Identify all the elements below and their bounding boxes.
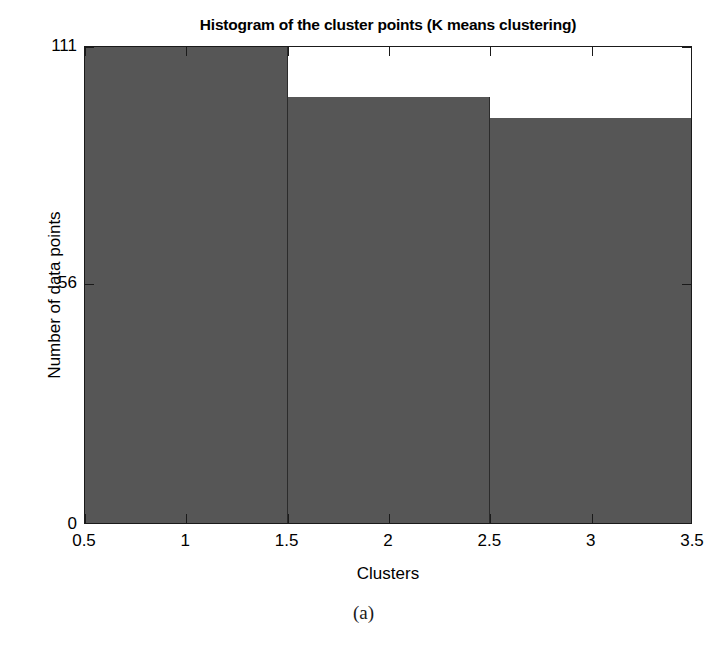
x-tick-label: 2.5 (478, 531, 502, 551)
y-axis-tick (682, 284, 691, 285)
x-axis-tick (288, 47, 289, 56)
x-axis-tick (288, 514, 289, 523)
histogram-bar (288, 97, 491, 523)
histogram-bar (490, 118, 692, 523)
x-axis-tick (592, 47, 593, 56)
x-axis-tick (389, 47, 390, 56)
chart-title: Histogram of the cluster points (K means… (84, 16, 692, 34)
x-tick-label: 1.5 (275, 531, 299, 551)
x-tick-label: 3 (586, 531, 595, 551)
histogram-bar (85, 46, 288, 523)
y-tick-label: 111 (51, 36, 77, 56)
x-axis-label: Clusters (84, 564, 692, 584)
x-axis-tick (389, 514, 390, 523)
x-tick-label: 1 (181, 531, 190, 551)
x-axis-tick (85, 514, 86, 523)
x-tick-label: 0.5 (72, 531, 96, 551)
y-axis-tick (682, 47, 691, 48)
x-axis-tick (85, 47, 86, 56)
x-axis-tick (490, 47, 491, 56)
x-axis-tick (592, 514, 593, 523)
x-axis-tick (490, 514, 491, 523)
x-tick-label: 3.5 (680, 531, 704, 551)
x-axis-tick (186, 47, 187, 56)
x-tick-label: 2 (383, 531, 392, 551)
plot-area (84, 46, 692, 524)
y-axis-label: Number of data points (45, 145, 65, 445)
x-axis-tick (186, 514, 187, 523)
y-tick-label: 0 (68, 514, 77, 534)
y-axis-tick (85, 284, 94, 285)
figure-caption: (a) (0, 602, 727, 624)
y-axis-tick (85, 47, 94, 48)
figure-container: Histogram of the cluster points (K means… (0, 0, 727, 655)
